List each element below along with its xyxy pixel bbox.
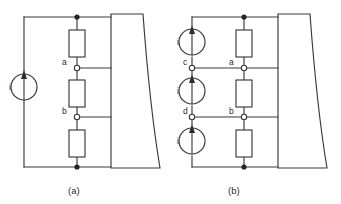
panel-b-node-c-label: c [183,57,188,67]
panel-b-node-top [241,14,246,19]
panel-a-node-top [74,14,79,19]
panel-b-resistor-middle [236,80,252,107]
panel-a-caption: (a) [68,185,80,196]
panel-b-node-d [189,114,194,119]
panel-a-node-a-label: a [62,57,67,67]
panel-b-node-d-label: d [183,106,188,116]
panel-b-source-1-label: i [177,37,179,47]
panel-b-node-a [241,65,246,70]
panel-b-node-b-label: b [229,106,234,116]
panel-b-node-c [189,65,194,70]
panel-a-node-a [74,65,79,70]
panel-a-resistor-middle [69,80,85,107]
panel-a-network-block [111,14,160,168]
panel-a-resistor-bottom [69,130,85,157]
panel-b-source-2-label: i [177,86,179,96]
panel-b-node-b [241,114,246,119]
panel-b-resistor-bottom [236,130,252,157]
figure-svg: i a b (a) [0,0,341,204]
panel-b: i i i c d a b [177,14,327,196]
panel-b-source-3-label: i [177,136,179,146]
panel-b-resistor-top [236,30,252,57]
panel-a-node-b [74,114,79,119]
panel-a-node-bottom [74,164,79,169]
circuit-figure: i a b (a) [0,0,341,204]
panel-b-node-a-label: a [229,57,234,67]
panel-a-source-1-label: i [9,82,11,92]
panel-b-caption: (b) [228,185,240,196]
panel-b-node-bottom [241,164,246,169]
panel-a: i a b (a) [9,14,160,196]
panel-b-network-block [278,14,327,168]
panel-a-node-b-label: b [62,106,67,116]
panel-a-resistor-top [69,30,85,57]
